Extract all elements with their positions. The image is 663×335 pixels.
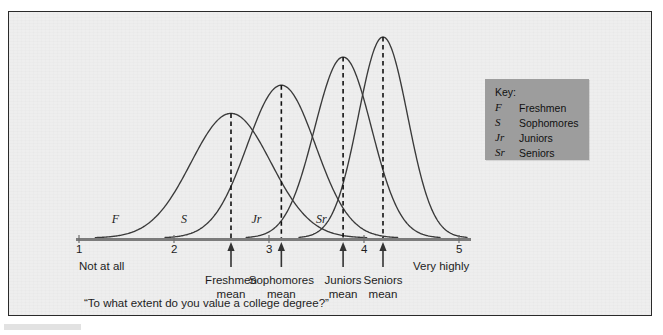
mean-label-word: mean <box>343 287 423 301</box>
legend-name: Sophomores <box>519 117 579 129</box>
curve-label-s: S <box>181 213 187 225</box>
curve-label-f: F <box>112 213 119 225</box>
axis-tick-label-3: 3 <box>266 244 272 256</box>
legend-item-freshmen: FFreshmen <box>495 101 589 116</box>
legend-abbr: S <box>495 116 513 128</box>
mean-arrow-f <box>227 242 234 267</box>
mean-label-sr: Seniorsmean <box>343 273 423 301</box>
figure-frame: FSJrSr 12345 Not at all Very highly Fres… <box>8 11 652 316</box>
legend-name: Freshmen <box>519 102 566 114</box>
page-edge-artifact <box>4 324 81 330</box>
legend-abbr: Jr <box>495 131 513 143</box>
legend-item-juniors: JrJuniors <box>495 131 589 146</box>
mean-label-name: Seniors <box>343 273 423 287</box>
axis-tick-label-4: 4 <box>361 244 367 256</box>
legend-abbr: Sr <box>495 146 513 158</box>
legend-key-box: Key: FFreshmenSSophomoresJrJuniorsSrSeni… <box>485 79 589 160</box>
legend-name: Juniors <box>519 132 553 144</box>
axis-tick-label-1: 1 <box>76 244 82 256</box>
legend-item-seniors: SrSeniors <box>495 146 589 161</box>
curve-label-jr: Jr <box>251 213 261 225</box>
chart-caption: “To what extent do you value a college d… <box>84 298 329 310</box>
axis-anchor-high: Very highly <box>413 261 469 273</box>
legend-abbr: F <box>495 101 513 113</box>
axis-tick-label-5: 5 <box>456 244 462 256</box>
mean-arrow-jr <box>340 242 347 267</box>
legend-item-sophomores: SSophomores <box>495 116 589 131</box>
axis-tick-label-2: 2 <box>171 244 177 256</box>
mean-arrow-s <box>278 242 285 267</box>
legend-name: Seniors <box>519 147 555 159</box>
legend-title: Key: <box>495 86 516 98</box>
axis-anchor-low: Not at all <box>79 261 124 273</box>
curve-label-sr: Sr <box>316 213 327 225</box>
mean-dashed-lines-group <box>231 37 383 238</box>
mean-arrow-sr <box>379 242 386 267</box>
